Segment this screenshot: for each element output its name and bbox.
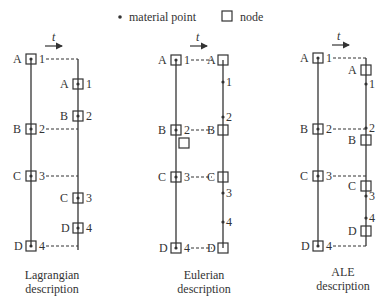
svg-text:D: D: [348, 224, 357, 238]
svg-text:D: D: [159, 241, 168, 255]
svg-text:A: A: [348, 63, 357, 77]
svg-text:2: 2: [184, 123, 190, 137]
right-node-C: C 3: [60, 191, 92, 205]
svg-text:4: 4: [39, 239, 45, 253]
svg-text:B: B: [300, 122, 308, 136]
time-symbol: t: [196, 30, 200, 44]
svg-text:3: 3: [369, 189, 375, 203]
svg-text:3: 3: [326, 169, 332, 183]
svg-text:3: 3: [86, 191, 92, 205]
svg-text:B: B: [207, 123, 215, 137]
left-node-B: B 2: [13, 122, 78, 136]
svg-text:C: C: [158, 170, 166, 184]
svg-text:1: 1: [369, 77, 375, 91]
svg-text:4: 4: [326, 239, 332, 253]
left-node-A: A 1: [13, 52, 78, 66]
svg-text:A: A: [158, 53, 167, 67]
left-node-C: C 3 C: [158, 170, 228, 184]
svg-text:B: B: [158, 123, 166, 137]
left-node-D: D 4: [301, 239, 366, 253]
svg-text:A: A: [13, 52, 22, 66]
svg-text:1: 1: [226, 75, 232, 89]
svg-text:3: 3: [226, 186, 232, 200]
left-node-D: D 4: [14, 239, 78, 253]
svg-text:A: A: [207, 53, 216, 67]
left-node-B: B 2 B: [158, 123, 228, 137]
panel-eulerian: t A 1 A B 2 B C 3 C: [158, 30, 232, 296]
left-node-C: C 3: [13, 169, 78, 183]
svg-text:B: B: [13, 122, 21, 136]
svg-text:C: C: [300, 169, 308, 183]
right-nodes: A B C D: [348, 63, 371, 238]
svg-text:2: 2: [326, 122, 332, 136]
svg-text:D: D: [207, 241, 216, 255]
caption-eulerian-line1: Eulerian: [184, 268, 225, 282]
legend: material point node: [118, 10, 263, 24]
displaced-node-icon: [179, 138, 189, 148]
svg-text:B: B: [60, 109, 68, 123]
caption-eulerian-line2: description: [177, 282, 230, 296]
svg-text:D: D: [301, 239, 310, 253]
svg-text:1: 1: [39, 52, 45, 66]
node-icon: [222, 11, 232, 21]
caption-lagrangian-line1: Lagrangian: [25, 268, 80, 282]
svg-text:1: 1: [184, 53, 190, 67]
svg-text:4: 4: [184, 241, 190, 255]
right-node-B: B 2: [60, 109, 92, 123]
legend-node-label: node: [240, 10, 263, 24]
svg-text:D: D: [14, 239, 23, 253]
left-node-C: C 3: [300, 169, 366, 183]
svg-text:4: 4: [226, 215, 232, 229]
material-point-icon: [118, 15, 122, 19]
svg-text:C: C: [348, 179, 356, 193]
panel-lagrangian: t A 1 B 2 C 3 D 4: [13, 30, 92, 296]
lagrangian-eulerian-ale-diagram: material point node t A 1 B 2 C 3: [0, 0, 392, 306]
panel-ale: t A 1 B 2 C 3 D 4 A B: [300, 29, 375, 293]
svg-text:1: 1: [86, 77, 92, 91]
svg-text:3: 3: [39, 169, 45, 183]
svg-text:2: 2: [369, 121, 375, 135]
svg-text:C: C: [207, 170, 215, 184]
caption-ale-line2: description: [316, 279, 369, 293]
svg-text:2: 2: [39, 122, 45, 136]
svg-text:B: B: [348, 133, 356, 147]
svg-text:A: A: [60, 77, 69, 91]
right-node-D: D 4: [61, 221, 92, 235]
caption-lagrangian-line2: description: [25, 282, 78, 296]
right-node-A: A 1: [60, 77, 92, 91]
svg-text:1: 1: [326, 51, 332, 65]
left-node-A: A 1 A: [158, 53, 228, 67]
time-symbol: t: [52, 30, 56, 44]
svg-text:3: 3: [184, 170, 190, 184]
svg-text:2: 2: [226, 110, 232, 124]
svg-text:C: C: [60, 191, 68, 205]
svg-text:4: 4: [369, 211, 375, 225]
left-node-B: B 2: [300, 122, 366, 136]
left-node-D: D 4 D: [159, 241, 228, 255]
legend-material-point-label: material point: [129, 10, 197, 24]
svg-text:D: D: [61, 221, 70, 235]
svg-text:2: 2: [86, 109, 92, 123]
time-symbol: t: [337, 29, 341, 43]
svg-text:A: A: [300, 51, 309, 65]
svg-text:4: 4: [86, 221, 92, 235]
svg-text:C: C: [13, 169, 21, 183]
caption-ale-line1: ALE: [331, 265, 354, 279]
